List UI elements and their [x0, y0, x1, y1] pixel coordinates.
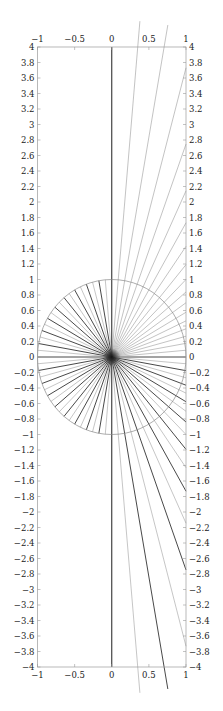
y-tick-label-left: 2.6 — [21, 151, 35, 161]
y-tick-label-right: −3.8 — [189, 647, 210, 657]
y-tick-label-left: 3 — [29, 120, 34, 130]
y-tick-label-right: 2.8 — [189, 135, 203, 145]
y-tick-label-left: −1.6 — [14, 476, 35, 486]
y-tick-label-left: −1.4 — [14, 461, 35, 471]
y-tick-label-left: −2.2 — [14, 523, 35, 533]
y-tick-label-left: 1.6 — [21, 228, 35, 238]
y-tick-label-right: 3.4 — [189, 89, 203, 99]
y-tick-label-right: −0.8 — [189, 414, 210, 424]
y-tick-label-right: 2.6 — [189, 151, 203, 161]
ray-line — [112, 191, 186, 357]
y-tick-label-left: −3 — [22, 585, 35, 595]
x-tick-label-bottom: 1 — [183, 670, 188, 680]
y-tick-label-right: 0 — [189, 352, 194, 362]
y-tick-label-left: 3.2 — [21, 104, 35, 114]
y-tick-label-left: 1.4 — [21, 244, 35, 254]
y-tick-label-left: −3.8 — [14, 647, 35, 657]
y-tick-label-right: −3.2 — [189, 600, 210, 610]
y-tick-label-right: 0.4 — [189, 321, 203, 331]
ray-fan-chart: −1−1−0.5−0.5000.50.511−4−4−3.8−3.8−3.6−3… — [0, 0, 223, 711]
y-tick-label-right: 2 — [189, 197, 194, 207]
y-tick-label-left: 3.6 — [21, 73, 35, 83]
ray-lines — [38, 21, 187, 693]
y-tick-label-right: 3.8 — [189, 58, 203, 68]
y-tick-label-left: 0.2 — [21, 337, 35, 347]
y-tick-label-right: 3.6 — [189, 73, 203, 83]
y-tick-label-right: −2 — [189, 507, 202, 517]
y-tick-label-left: −2.6 — [14, 554, 35, 564]
y-tick-label-right: 1.6 — [189, 228, 203, 238]
y-tick-label-left: 2.2 — [21, 182, 35, 192]
y-tick-label-left: −0.8 — [14, 414, 35, 424]
x-tick-label-top: 0 — [109, 34, 114, 44]
ray-line — [112, 321, 186, 357]
y-tick-label-left: 2 — [29, 197, 34, 207]
y-tick-label-left: −3.6 — [14, 631, 35, 641]
y-tick-label-right: 1.4 — [189, 244, 203, 254]
y-tick-label-left: 0 — [29, 352, 34, 362]
y-tick-label-right: 1.8 — [189, 213, 203, 223]
y-tick-label-left: 2.4 — [21, 166, 35, 176]
y-tick-label-right: 3.2 — [189, 104, 203, 114]
y-tick-label-left: −0.4 — [14, 383, 35, 393]
y-tick-label-left: 1.2 — [21, 259, 35, 269]
y-tick-label-right: 2.4 — [189, 166, 203, 176]
y-tick-label-left: −3.4 — [14, 616, 35, 626]
y-tick-label-right: 3 — [189, 120, 194, 130]
y-tick-label-left: 0.4 — [21, 321, 35, 331]
y-tick-label-right: −2.4 — [189, 538, 210, 548]
y-tick-label-left: −3.2 — [14, 600, 35, 610]
y-tick-label-right: 0.6 — [189, 306, 203, 316]
y-tick-label-right: 1 — [189, 275, 194, 285]
y-tick-label-left: 4 — [29, 42, 34, 52]
y-tick-label-left: 3.8 — [21, 58, 35, 68]
y-tick-label-right: −3.4 — [189, 616, 210, 626]
x-tick-label-top: 1 — [183, 34, 188, 44]
y-tick-label-left: −4 — [22, 662, 35, 672]
y-tick-label-left: −0.6 — [14, 399, 35, 409]
y-tick-label-right: 0.8 — [189, 290, 203, 300]
y-tick-label-left: 2.8 — [21, 135, 35, 145]
y-tick-label-left: −0.2 — [14, 368, 35, 378]
y-tick-label-right: −0.4 — [189, 383, 210, 393]
y-tick-label-right: −0.6 — [189, 399, 210, 409]
y-tick-label-left: 1.8 — [21, 213, 35, 223]
x-tick-label-bottom: 0 — [109, 670, 114, 680]
x-tick-label-top: 0.5 — [142, 34, 156, 44]
y-tick-label-right: −0.2 — [189, 368, 210, 378]
ray-line — [112, 144, 186, 357]
ray-line — [112, 357, 186, 523]
y-tick-label-right: −4 — [189, 662, 202, 672]
y-tick-label-right: 0.2 — [189, 337, 203, 347]
y-tick-label-right: −1.8 — [189, 492, 210, 502]
y-tick-label-left: −2.4 — [14, 538, 35, 548]
y-tick-label-right: −2.6 — [189, 554, 210, 564]
ray-line — [112, 68, 186, 357]
ray-line — [112, 21, 140, 357]
y-tick-label-left: −2.8 — [14, 569, 35, 579]
y-tick-label-right: 2.2 — [189, 182, 203, 192]
y-tick-label-left: −2 — [22, 507, 35, 517]
y-tick-label-left: 0.6 — [21, 306, 35, 316]
y-tick-label-right: −1.2 — [189, 445, 210, 455]
ray-line — [112, 357, 140, 693]
y-tick-label-right: −1.4 — [189, 461, 210, 471]
y-tick-label-right: −2.8 — [189, 569, 210, 579]
y-tick-label-right: −1.6 — [189, 476, 210, 486]
y-tick-label-right: −3.6 — [189, 631, 210, 641]
y-tick-label-right: 4 — [189, 42, 194, 52]
y-tick-label-left: −1.2 — [14, 445, 35, 455]
y-tick-label-left: −1 — [22, 430, 35, 440]
y-tick-label-left: −1.8 — [14, 492, 35, 502]
origin-convergence — [103, 348, 121, 366]
x-tick-label-bottom: 0.5 — [142, 670, 156, 680]
x-tick-label-top: −0.5 — [64, 34, 85, 44]
y-tick-label-left: 0.8 — [21, 290, 35, 300]
y-tick-label-right: −2.2 — [189, 523, 210, 533]
y-tick-label-left: 1 — [29, 275, 34, 285]
x-tick-label-bottom: −0.5 — [64, 670, 85, 680]
y-tick-label-right: 1.2 — [189, 259, 203, 269]
ray-line — [112, 357, 186, 646]
y-tick-label-left: 3.4 — [21, 89, 35, 99]
y-tick-label-right: −1 — [189, 430, 202, 440]
